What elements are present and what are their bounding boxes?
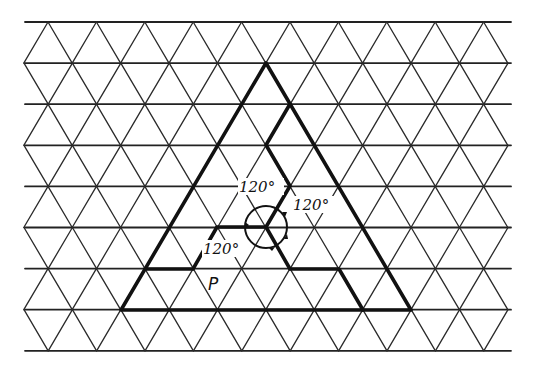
grid-diagonal-line <box>339 145 363 186</box>
grid-diagonal-line <box>24 22 48 63</box>
grid-diagonal-line <box>435 145 459 186</box>
grid-diagonal-line <box>242 269 266 310</box>
grid-diagonal-line <box>484 310 508 351</box>
grid-diagonal-line <box>48 310 72 351</box>
grid-diagonal-line <box>411 104 435 145</box>
grid-diagonal-line <box>290 63 314 104</box>
grid-diagonal-line <box>460 310 484 351</box>
grid-diagonal-line <box>97 310 121 351</box>
grid-diagonal-line <box>72 22 96 63</box>
grid-diagonal-line <box>338 104 362 145</box>
grid-diagonal-line <box>24 63 48 104</box>
grid-diagonal-line <box>314 104 338 145</box>
grid-diagonal-line <box>96 186 120 227</box>
grid-diagonal-line <box>411 228 435 269</box>
grid-diagonal-line <box>218 310 242 351</box>
grid-diagonal-line <box>121 228 145 269</box>
grid-diagonal-line <box>290 145 314 186</box>
grid-diagonal-line <box>96 22 120 63</box>
grid-diagonal-line <box>169 104 193 145</box>
grid-diagonal-line <box>314 310 338 351</box>
grid-diagonal-line <box>363 104 387 145</box>
grid-diagonal-line <box>363 22 387 63</box>
grid-diagonal-line <box>193 63 217 104</box>
grid-diagonal-line <box>121 63 145 104</box>
grid-diagonal-line <box>387 104 411 145</box>
grid-diagonal-line <box>460 228 484 269</box>
grid-diagonal-line <box>96 269 120 310</box>
grid-diagonal-line <box>48 186 72 227</box>
grid-diagonal-line <box>387 63 411 104</box>
grid-diagonal-line <box>435 22 459 63</box>
grid-diagonal-line <box>435 63 459 104</box>
grid-diagonal-line <box>218 63 242 104</box>
grid-diagonal-line <box>387 310 411 351</box>
grid-diagonal-line <box>97 63 121 104</box>
grid-diagonal-line <box>363 63 387 104</box>
angle-label-upper: 120° <box>239 178 275 196</box>
grid-diagonal-line <box>411 22 435 63</box>
grid-diagonal-line <box>217 269 241 310</box>
grid-diagonal-line <box>290 269 314 310</box>
grid-diagonal-line <box>435 104 459 145</box>
grid-diagonal-line <box>242 104 266 145</box>
grid-diagonal-line <box>242 22 266 63</box>
grid-diagonal-line <box>484 269 508 310</box>
grid-diagonal-line <box>242 310 266 351</box>
grid-diagonal-line <box>363 186 387 227</box>
grid-diagonal-line <box>145 22 169 63</box>
grid-diagonal-line <box>338 22 362 63</box>
grid-diagonal-line <box>169 63 193 104</box>
grid-diagonal-line <box>169 22 193 63</box>
grid-diagonal-line <box>169 145 193 186</box>
triangular-lattice-diagram: 120° 120° 120° P <box>0 0 534 367</box>
grid-diagonal-line <box>48 269 72 310</box>
grid-diagonal-line <box>484 145 508 186</box>
grid-diagonal-line <box>266 22 290 63</box>
grid-diagonal-line <box>193 310 217 351</box>
grid-diagonal-line <box>460 145 484 186</box>
grid-diagonal-line <box>72 310 96 351</box>
grid-diagonal-line <box>145 145 169 186</box>
grid-diagonal-line <box>484 104 508 145</box>
grid-diagonal-line <box>363 310 387 351</box>
grid-diagonal-line <box>24 186 48 227</box>
grid-diagonal-line <box>217 186 241 227</box>
grid-diagonal-line <box>387 22 411 63</box>
grid-diagonal-line <box>459 104 483 145</box>
grid-diagonal-line <box>24 104 48 145</box>
grid-diagonal-line <box>411 310 435 351</box>
grid-diagonal-line <box>484 63 508 104</box>
grid-diagonal-line <box>169 269 193 310</box>
grid-diagonal-line <box>48 104 72 145</box>
grid-diagonal-line <box>290 22 314 63</box>
grid-diagonal-line <box>72 186 96 227</box>
grid-diagonal-line <box>339 310 363 351</box>
grid-diagonal-line <box>97 228 121 269</box>
grid-diagonal-line <box>121 310 145 351</box>
grid-diagonal-line <box>387 145 411 186</box>
grid-diagonal-line <box>48 22 72 63</box>
grid-diagonal-line <box>72 104 96 145</box>
grid-diagonal-line <box>193 22 217 63</box>
grid-diagonal-line <box>121 145 145 186</box>
grid-diagonal-line <box>484 186 508 227</box>
grid-diagonal-line <box>435 269 459 310</box>
grid-diagonal-line <box>387 186 411 227</box>
grid-diagonal-line <box>24 228 48 269</box>
grid-diagonal-line <box>363 269 387 310</box>
grid-diagonal-line <box>459 269 483 310</box>
grid-diagonal-line <box>48 228 72 269</box>
grid-diagonal-line <box>459 22 483 63</box>
grid-diagonal-line <box>339 63 363 104</box>
grid-diagonal-line <box>314 228 338 269</box>
grid-diagonal-line <box>435 310 459 351</box>
grid-diagonal-line <box>460 63 484 104</box>
grid-diagonal-line <box>121 104 145 145</box>
grid-diagonal-line <box>387 228 411 269</box>
region-label-p: P <box>208 274 219 294</box>
grid-diagonal-line <box>145 63 169 104</box>
grid-diagonal-line <box>96 104 120 145</box>
grid-diagonal-line <box>48 145 72 186</box>
grid-diagonal-line <box>266 269 290 310</box>
